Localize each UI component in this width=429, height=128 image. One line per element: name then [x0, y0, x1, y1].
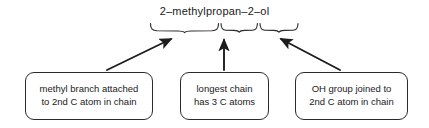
annotated-nomenclature-diagram: 2–methylpropan–2–ol methyl branch attach…	[0, 0, 429, 128]
propan-stem-brace	[151, 24, 219, 33]
callout-longest-chain-line-2: has 3 C atoms	[194, 96, 255, 109]
position-2-brace	[221, 24, 257, 33]
callout-oh-group-line-1: OH group joined to	[312, 83, 392, 96]
arrow-group	[107, 39, 340, 70]
callout-oh-group: OH group joined to 2nd C atom in chain	[295, 72, 408, 120]
callout-methyl-branch: methyl branch attached to 2nd C atom in …	[25, 72, 153, 120]
brace-group	[151, 24, 299, 33]
callout-methyl-branch-line-1: methyl branch attached	[40, 83, 139, 96]
arrow-to-methyl-segment	[107, 39, 171, 70]
callout-longest-chain-line-1: longest chain	[197, 83, 253, 96]
arrow-to-oh-segment	[281, 39, 340, 70]
page-title: 2–methylpropan–2–ol	[0, 5, 429, 17]
callout-longest-chain: longest chain has 3 C atoms	[180, 72, 269, 120]
callout-methyl-branch-line-2: to 2nd C atom in chain	[41, 96, 136, 109]
ol-suffix-brace	[260, 24, 298, 33]
callout-oh-group-line-2: 2nd C atom in chain	[309, 96, 394, 109]
